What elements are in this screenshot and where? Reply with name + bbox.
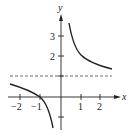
x-tick-label: −2 [11,101,22,112]
y-tick-label: 2 [50,51,55,62]
y-axis-arrow-icon [59,14,63,21]
function-graph: −2 −1 1 2 3 2 y x [0,0,135,138]
y-axis-label: y [57,2,63,13]
x-tick-label: 2 [97,101,102,112]
y-tick-label: 3 [50,31,55,42]
x-tick-label: 1 [78,101,83,112]
x-tick-label: −1 [31,101,42,112]
curve-right-branch [69,23,112,69]
x-axis-label: x [121,91,127,102]
x-axis-arrow-icon [114,95,121,99]
